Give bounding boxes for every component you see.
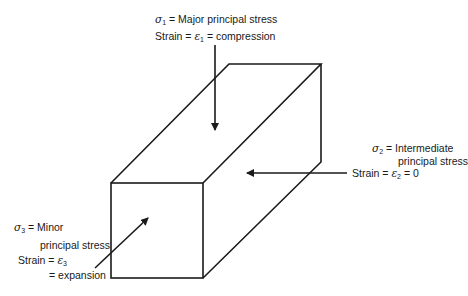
sigma1-strain-prefix: Strain =	[155, 30, 191, 42]
sigma3-line4-text: = expansion	[49, 269, 106, 281]
sigma2-strain-label: Strain = ε2 = 0	[352, 167, 419, 183]
sigma3-line2-text: principal stress	[40, 239, 110, 251]
block-front-face	[111, 183, 203, 278]
sigma3-strain-prefix: Strain =	[18, 254, 54, 266]
epsilon1-subscript: 1	[200, 36, 204, 43]
block-right-face	[203, 64, 321, 278]
sigma1-strain-label: Strain = ε1 = compression	[155, 30, 275, 46]
sigma2-strain-text: = 0	[404, 167, 419, 179]
epsilon3-subscript: 3	[63, 260, 67, 267]
sigma2-strain-prefix: Strain =	[352, 167, 388, 179]
sigma1-strain-text: = compression	[207, 30, 276, 42]
sigma3-label: σ3 = Minor	[14, 221, 63, 237]
sigma2-subscript: 2	[379, 148, 383, 155]
sigma3-strain-label: Strain = ε3	[18, 254, 67, 270]
sigma3-text: = Minor	[28, 221, 63, 233]
sigma2-line2-text: principal stress	[398, 155, 468, 167]
rectangular-block	[111, 64, 321, 278]
block-top-face	[111, 64, 321, 183]
sigma1-label: σ1 = Major principal stress	[155, 13, 277, 29]
sigma2-text: = Intermediate	[386, 142, 453, 154]
sigma1-subscript: 1	[162, 19, 166, 26]
epsilon2-subscript: 2	[397, 173, 401, 180]
sigma2-line2: principal stress	[398, 155, 468, 167]
sigma3-subscript: 3	[21, 227, 25, 234]
sigma1-text: = Major principal stress	[169, 13, 277, 25]
sigma3-line2: principal stress	[40, 239, 110, 251]
sigma3-line4: = expansion	[49, 269, 106, 281]
